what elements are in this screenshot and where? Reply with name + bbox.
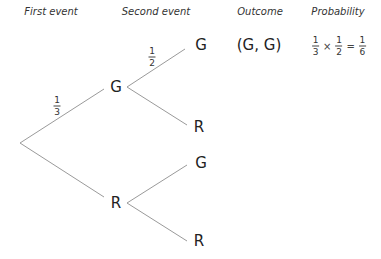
times-sign: × bbox=[323, 41, 331, 52]
outcome-GG: (G, G) bbox=[237, 36, 282, 54]
numerator: 1 bbox=[54, 96, 60, 105]
node-R-R: R bbox=[194, 234, 204, 249]
branch-R-to-G bbox=[127, 165, 187, 203]
branch-root-to-R bbox=[20, 143, 104, 197]
probability-GG: 1 3 × 1 2 = 1 6 bbox=[312, 36, 366, 57]
denominator: 2 bbox=[149, 59, 155, 68]
node-R-G: G bbox=[195, 156, 207, 171]
node-first-G: G bbox=[110, 80, 122, 95]
branch-G-to-R bbox=[127, 87, 187, 125]
denominator: 3 bbox=[54, 108, 60, 117]
equals-sign: = bbox=[347, 41, 355, 52]
node-G-R: R bbox=[194, 120, 204, 135]
node-G-G: G bbox=[195, 38, 207, 53]
branch-prob-G-G: 1 2 bbox=[149, 47, 156, 68]
branch-root-to-G bbox=[20, 89, 104, 143]
branch-G-to-G bbox=[127, 49, 185, 87]
branch-R-to-R bbox=[127, 203, 187, 241]
fraction-result: 1 6 bbox=[359, 36, 366, 57]
numerator: 1 bbox=[149, 47, 155, 56]
fraction-a: 1 3 bbox=[312, 36, 319, 57]
fraction-b: 1 2 bbox=[336, 36, 343, 57]
branch-prob-first-G: 1 3 bbox=[54, 96, 61, 117]
node-first-R: R bbox=[111, 196, 121, 211]
